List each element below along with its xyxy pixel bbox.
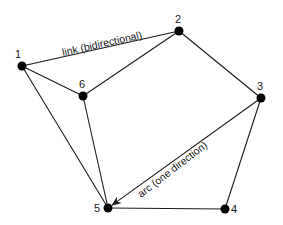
link-6-5	[83, 96, 108, 208]
link-annotation-label: link (bidirectional)	[61, 28, 143, 58]
node-label-3: 3	[257, 80, 263, 92]
edges-group	[22, 31, 261, 209]
node-2	[175, 27, 184, 36]
node-label-1: 1	[15, 48, 21, 60]
node-label-4: 4	[231, 203, 237, 215]
link-3-4	[225, 98, 261, 209]
node-label-6: 6	[79, 78, 85, 90]
node-3	[257, 94, 266, 103]
node-label-2: 2	[175, 13, 181, 25]
arc-annotation-label: arc (one direction)	[135, 139, 209, 200]
network-graph-diagram: 123456 link (bidirectional) arc (one dir…	[0, 0, 283, 225]
link-4-5	[108, 208, 225, 209]
node-label-5: 5	[94, 202, 100, 214]
node-6	[79, 92, 88, 101]
node-4	[221, 205, 230, 214]
node-1	[18, 62, 27, 71]
link-2-3	[179, 31, 261, 98]
node-5	[104, 204, 113, 213]
